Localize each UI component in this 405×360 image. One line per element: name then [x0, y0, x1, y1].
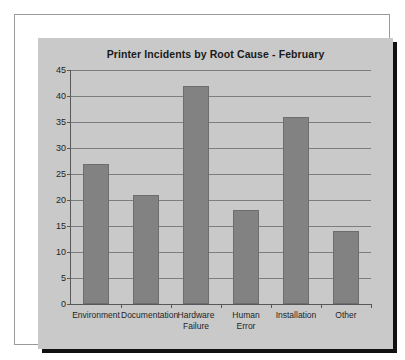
plot-area: 051015202530354045EnvironmentDocumentati… — [70, 70, 371, 305]
gridline — [71, 226, 371, 227]
gridline — [71, 252, 371, 253]
y-axis-tick-label: 45 — [38, 65, 66, 75]
bar-chart-panel: Printer Incidents by Root Cause - Februa… — [38, 38, 393, 349]
bar[interactable] — [233, 210, 259, 304]
y-axis-tick-label: 0 — [38, 299, 66, 309]
gridline — [71, 70, 371, 71]
x-axis-tick-label: Other — [321, 310, 371, 321]
y-axis-tick-mark — [67, 200, 71, 201]
x-axis-tick-label: Environment — [71, 310, 121, 321]
y-axis-tick-mark — [67, 148, 71, 149]
y-axis-tick-mark — [67, 226, 71, 227]
x-axis-tick-label: Hardware Failure — [171, 310, 221, 332]
y-axis-tick-mark — [67, 70, 71, 71]
y-axis-tick-label: 30 — [38, 143, 66, 153]
y-axis-tick-mark — [67, 96, 71, 97]
y-axis-tick-label: 20 — [38, 195, 66, 205]
x-axis-tick-mark — [121, 304, 122, 308]
y-axis-tick-label: 15 — [38, 221, 66, 231]
y-axis-tick-label: 10 — [38, 247, 66, 257]
x-axis-tick-mark — [171, 304, 172, 308]
x-axis-tick-mark — [321, 304, 322, 308]
gridline — [71, 96, 371, 97]
gridline — [71, 122, 371, 123]
y-axis-tick-label: 35 — [38, 117, 66, 127]
x-axis-tick-label: Installation — [271, 310, 321, 321]
x-axis-tick-mark — [271, 304, 272, 308]
bar[interactable] — [333, 231, 359, 304]
bar[interactable] — [283, 117, 309, 304]
x-axis-tick-mark — [371, 304, 372, 308]
y-axis-tick-mark — [67, 278, 71, 279]
gridline — [71, 278, 371, 279]
y-axis-tick-label: 25 — [38, 169, 66, 179]
gridline — [71, 174, 371, 175]
chart-title: Printer Incidents by Root Cause - Februa… — [38, 48, 393, 60]
bar[interactable] — [83, 164, 109, 304]
y-axis-tick-label: 40 — [38, 91, 66, 101]
y-axis-tick-mark — [67, 122, 71, 123]
bar[interactable] — [133, 195, 159, 304]
gridline — [71, 148, 371, 149]
y-axis-tick-mark — [67, 304, 71, 305]
x-axis-tick-mark — [221, 304, 222, 308]
x-axis-tick-label: Documentation — [121, 310, 171, 321]
y-axis-tick-mark — [67, 252, 71, 253]
bar[interactable] — [183, 86, 209, 304]
gridline — [71, 200, 371, 201]
page-frame: Printer Incidents by Root Cause - Februa… — [14, 14, 390, 345]
y-axis-tick-mark — [67, 174, 71, 175]
x-axis-tick-label: Human Error — [221, 310, 271, 332]
y-axis-tick-label: 5 — [38, 273, 66, 283]
